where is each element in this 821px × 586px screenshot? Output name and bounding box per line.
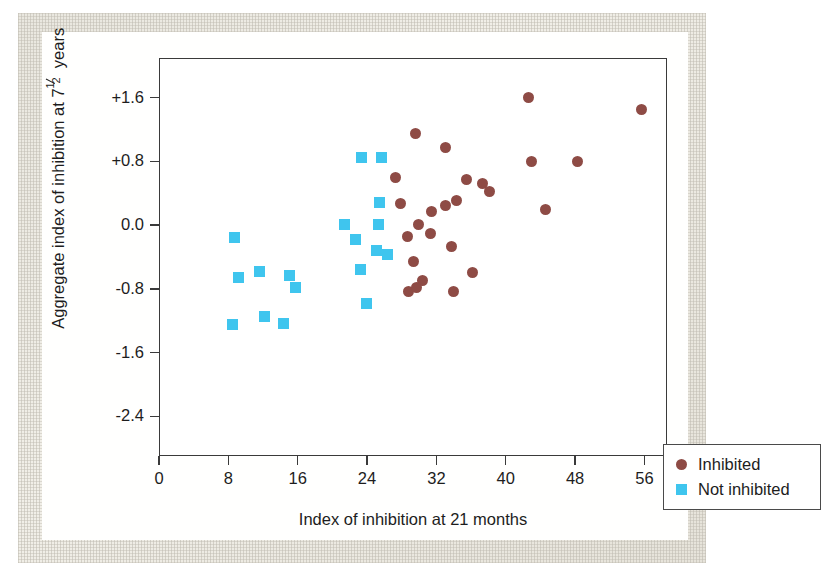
data-point-not-inhibited [382, 249, 393, 260]
data-point-not-inhibited [350, 234, 361, 245]
data-point-inhibited [425, 228, 436, 239]
data-point-not-inhibited [284, 270, 295, 281]
x-tick-label: 48 [555, 469, 595, 488]
x-tick-mark [505, 456, 506, 465]
y-axis-title-fraction: 12 [48, 73, 65, 89]
x-tick-mark [644, 456, 645, 465]
x-tick-label: 56 [624, 469, 664, 488]
data-point-not-inhibited [356, 152, 367, 163]
legend-item-inhibited: Inhibited [676, 452, 820, 477]
y-tick-label: 0.0 [84, 215, 144, 234]
x-tick-label: 8 [208, 469, 248, 488]
legend-label-not-inhibited: Not inhibited [698, 480, 790, 499]
data-point-not-inhibited [373, 219, 384, 230]
data-point-not-inhibited [233, 272, 244, 283]
data-point-not-inhibited [290, 282, 301, 293]
y-tick-mark [150, 161, 159, 162]
data-point-inhibited [523, 92, 534, 103]
chart-legend: Inhibited Not inhibited [663, 444, 821, 510]
x-tick-label: 24 [347, 469, 387, 488]
x-tick-mark [228, 456, 229, 465]
legend-square-marker-icon [676, 484, 687, 495]
data-point-not-inhibited [259, 311, 270, 322]
data-point-inhibited [451, 195, 462, 206]
data-point-inhibited [484, 186, 495, 197]
x-tick-label: 40 [486, 469, 526, 488]
data-point-not-inhibited [361, 298, 372, 309]
data-point-inhibited [461, 174, 472, 185]
y-axis-title: Aggregate index of inhibition at 712 yea… [48, 23, 69, 333]
data-point-inhibited [410, 128, 421, 139]
legend-item-not-inhibited: Not inhibited [676, 477, 820, 502]
data-point-not-inhibited [229, 232, 240, 243]
data-point-not-inhibited [355, 264, 366, 275]
fraction-denominator: 2 [50, 77, 62, 83]
y-tick-mark [150, 352, 159, 353]
data-point-inhibited [426, 206, 437, 217]
y-tick-label: -1.6 [84, 343, 144, 362]
legend-circle-marker-icon [676, 459, 687, 470]
y-tick-mark [150, 224, 159, 225]
data-point-inhibited [408, 256, 419, 267]
y-tick-mark [150, 288, 159, 289]
data-point-not-inhibited [278, 318, 289, 329]
legend-label-inhibited: Inhibited [698, 455, 760, 474]
data-point-not-inhibited [371, 245, 382, 256]
x-tick-label: 32 [416, 469, 456, 488]
data-point-inhibited [526, 156, 537, 167]
data-point-inhibited [467, 267, 478, 278]
y-tick-label: +0.8 [84, 151, 144, 170]
y-tick-mark [150, 97, 159, 98]
data-point-inhibited [440, 142, 451, 153]
data-point-inhibited [636, 104, 647, 115]
data-point-inhibited [448, 286, 459, 297]
x-tick-mark [436, 456, 437, 465]
y-axis-title-suffix: years [49, 28, 67, 73]
data-point-inhibited [402, 231, 413, 242]
data-point-inhibited [390, 172, 401, 183]
x-tick-mark [366, 456, 367, 465]
y-tick-label: -0.8 [84, 279, 144, 298]
data-point-inhibited [411, 282, 422, 293]
plot-frame: Inhibited Not inhibited [159, 58, 667, 456]
x-axis-title: Index of inhibition at 21 months [159, 510, 667, 529]
data-point-not-inhibited [376, 152, 387, 163]
data-point-inhibited [540, 204, 551, 215]
data-point-not-inhibited [339, 219, 350, 230]
data-point-inhibited [446, 241, 457, 252]
x-tick-mark [574, 456, 575, 465]
x-tick-label: 16 [278, 469, 318, 488]
data-point-inhibited [395, 198, 406, 209]
x-tick-label: 0 [139, 469, 179, 488]
data-point-not-inhibited [254, 266, 265, 277]
y-tick-label: +1.6 [84, 88, 144, 107]
data-point-not-inhibited [227, 319, 238, 330]
y-axis-title-prefix: Aggregate index of inhibition at 7 [49, 88, 67, 328]
y-tick-mark [150, 416, 159, 417]
data-point-inhibited [413, 219, 424, 230]
data-point-inhibited [440, 200, 451, 211]
data-point-not-inhibited [374, 197, 385, 208]
data-point-inhibited [572, 156, 583, 167]
x-tick-mark [158, 456, 159, 465]
y-tick-label: -2.4 [84, 406, 144, 425]
x-tick-mark [297, 456, 298, 465]
